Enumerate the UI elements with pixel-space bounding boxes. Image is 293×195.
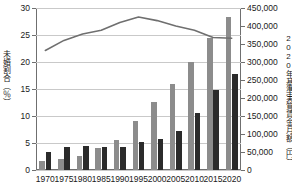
right-tick-label: 100,000 — [247, 130, 278, 139]
right-tick-label: 200,000 — [247, 94, 278, 103]
x-tick-label: 1995 — [129, 174, 148, 184]
x-tick-label: 2000 — [148, 174, 167, 184]
left-tick-label: 15 — [21, 85, 30, 94]
right-tick-mark — [241, 170, 245, 171]
x-tick-label: 1970 — [36, 174, 55, 184]
right-tick-label: 250,000 — [247, 76, 278, 85]
right-tick-mark — [241, 44, 245, 45]
right-tick-label: 350,000 — [247, 40, 278, 49]
x-tick-label: 2010 — [185, 174, 204, 184]
left-tick-label: 20 — [21, 58, 30, 67]
line-series — [36, 8, 241, 170]
right-tick-mark — [241, 116, 245, 117]
x-tick-label: 1975 — [54, 174, 73, 184]
x-tick-label: 1980 — [73, 174, 92, 184]
left-tick-label: 25 — [21, 31, 30, 40]
x-tick-label: 1990 — [110, 174, 129, 184]
x-tick-label: 2015 — [204, 174, 223, 184]
plot-area: 051015202530 050,000100,000150,000200,00… — [36, 8, 241, 170]
left-tick-label: 30 — [21, 4, 30, 13]
gridline — [36, 170, 241, 171]
right-tick-mark — [241, 152, 245, 153]
right-tick-mark — [241, 98, 245, 99]
right-tick-label: 0 — [247, 166, 252, 175]
wage-line-path — [45, 17, 231, 50]
left-tick-mark — [32, 170, 36, 171]
right-tick-label: 300,000 — [247, 58, 278, 67]
right-tick-label: 400,000 — [247, 22, 278, 31]
left-tick-label: 5 — [25, 139, 30, 148]
left-axis-title: 未婚割合（％） — [1, 50, 10, 106]
right-tick-mark — [241, 26, 245, 27]
right-tick-label: 450,000 — [247, 4, 278, 13]
right-tick-mark — [241, 80, 245, 81]
left-tick-label: 0 — [25, 166, 30, 175]
right-tick-mark — [241, 134, 245, 135]
right-tick-mark — [241, 62, 245, 63]
right-tick-mark — [241, 8, 245, 9]
x-tick-label: 2020 — [222, 174, 241, 184]
left-tick-label: 10 — [21, 112, 30, 121]
right-tick-label: 150,000 — [247, 112, 278, 121]
right-axis-title: 2020年基準実質賃金月額（円） — [284, 34, 293, 166]
chart-container: 未婚割合（％） 2020年基準実質賃金月額（円） 051015202530 05… — [0, 0, 292, 195]
x-tick-label: 1985 — [92, 174, 111, 184]
x-tick-label: 2005 — [166, 174, 185, 184]
right-tick-label: 50,000 — [247, 148, 273, 157]
